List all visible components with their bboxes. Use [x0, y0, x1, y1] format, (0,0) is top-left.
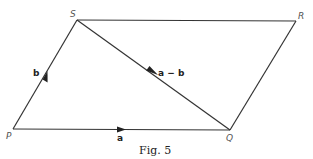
side-PS — [13, 20, 77, 129]
figure-caption: Fig. 5 — [139, 144, 171, 157]
parallelogram-diagram: S R P Q b a − b a Fig. 5 — [0, 0, 313, 159]
vertex-label-Q: Q — [226, 133, 233, 143]
arrow-a-icon — [117, 127, 126, 133]
vertex-label-R: R — [298, 11, 304, 21]
vector-label-a-minus-b: a − b — [158, 68, 185, 78]
vector-label-b: b — [33, 68, 40, 78]
vector-label-a: a — [117, 133, 123, 143]
vertex-label-S: S — [70, 9, 76, 19]
side-SR — [77, 20, 296, 21]
diagonal-SQ — [77, 20, 230, 130]
side-QR — [230, 21, 296, 130]
vertex-label-P: P — [6, 131, 12, 141]
